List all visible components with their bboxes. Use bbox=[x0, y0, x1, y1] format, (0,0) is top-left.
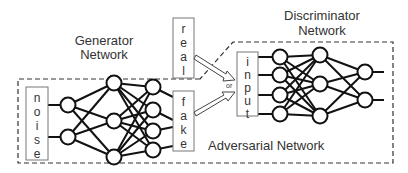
generator-title-line1: Generator bbox=[75, 33, 134, 48]
box-letter: r bbox=[182, 22, 186, 36]
generator-node bbox=[107, 76, 122, 91]
discriminator-node bbox=[273, 88, 288, 103]
generator-title-line2: Network bbox=[80, 47, 128, 62]
generator-node bbox=[146, 143, 161, 158]
box-letter: a bbox=[180, 109, 187, 123]
box-letter: e bbox=[180, 36, 187, 50]
box-letter: i bbox=[36, 119, 39, 133]
discriminator-node bbox=[273, 68, 288, 83]
discriminator-title-line2: Network bbox=[298, 23, 346, 38]
generator-node bbox=[61, 130, 76, 145]
box-letter: i bbox=[246, 55, 249, 69]
box-letter: n bbox=[244, 68, 251, 82]
box-letter: p bbox=[244, 81, 251, 95]
discriminator-node bbox=[313, 48, 328, 63]
generator-node bbox=[146, 103, 161, 118]
generator-node bbox=[146, 80, 161, 95]
discriminator-node bbox=[273, 50, 288, 65]
discriminator-node bbox=[273, 107, 288, 122]
box-letter: u bbox=[244, 94, 251, 108]
generator-node bbox=[146, 124, 161, 139]
box-letter: l bbox=[182, 64, 185, 78]
box-letter: s bbox=[34, 133, 40, 147]
discriminator-node bbox=[358, 65, 373, 80]
adversarial-title: Adversarial Network bbox=[208, 138, 325, 153]
gan-diagram: noise real fake input or Generator Netwo… bbox=[0, 0, 408, 173]
discriminator-nodes bbox=[273, 48, 373, 124]
generator-node bbox=[61, 98, 76, 113]
discriminator-node bbox=[313, 77, 328, 92]
box-letter: e bbox=[180, 137, 187, 151]
box-letter: o bbox=[34, 105, 41, 119]
generator-node bbox=[107, 114, 122, 129]
generator-node bbox=[107, 150, 122, 165]
box-letter: a bbox=[180, 50, 187, 64]
real-to-input-arrow bbox=[194, 55, 235, 81]
box-letter: e bbox=[34, 147, 41, 161]
box-letter: n bbox=[34, 91, 41, 105]
discriminator-title-line1: Discriminator bbox=[284, 8, 361, 23]
discriminator-node bbox=[358, 93, 373, 108]
fake-to-input-arrow bbox=[194, 92, 235, 116]
box-letter: k bbox=[181, 123, 188, 137]
discriminator-node bbox=[313, 109, 328, 124]
or-label: or bbox=[226, 82, 233, 89]
